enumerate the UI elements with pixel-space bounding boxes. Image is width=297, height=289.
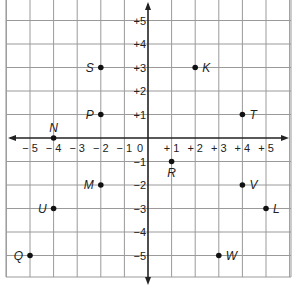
x-tick-label: − 3	[69, 142, 85, 154]
point-u	[51, 206, 57, 212]
point-label-p: P	[86, 108, 94, 122]
y-tick-label: −4	[133, 226, 146, 238]
point-t	[240, 112, 246, 118]
x-tick-label: + 2	[187, 142, 203, 154]
x-tick-label: + 1	[164, 142, 180, 154]
point-label-w: W	[226, 249, 239, 263]
y-axis-down-arrow-icon	[145, 277, 151, 285]
x-tick-label: − 4	[46, 142, 62, 154]
y-tick-label: −3	[133, 203, 146, 215]
point-label-n: N	[49, 121, 58, 135]
point-label-k: K	[202, 61, 211, 75]
y-tick-label: +2	[133, 85, 146, 97]
point-label-s: S	[86, 61, 94, 75]
point-n	[51, 135, 57, 141]
x-tick-label: − 2	[93, 142, 109, 154]
y-tick-label: +1	[133, 109, 146, 121]
x-tick-label: + 4	[235, 142, 251, 154]
point-label-l: L	[273, 202, 280, 216]
point-q	[27, 253, 33, 259]
origin-label: 0	[137, 142, 143, 154]
y-tick-label: +4	[133, 38, 146, 50]
x-tick-label: + 3	[211, 142, 227, 154]
point-w	[216, 253, 222, 259]
point-p	[98, 112, 104, 118]
y-tick-label: −2	[133, 179, 146, 191]
x-axis-right-arrow-icon	[281, 135, 289, 141]
point-label-r: R	[167, 166, 176, 180]
point-label-q: Q	[14, 249, 23, 263]
y-tick-label: +3	[133, 62, 146, 74]
point-label-m: M	[84, 178, 94, 192]
point-v	[240, 182, 246, 188]
x-tick-label: + 5	[258, 142, 274, 154]
point-k	[192, 65, 198, 71]
y-tick-label: +5	[133, 15, 146, 27]
x-tick-label: − 5	[22, 142, 38, 154]
x-tick-label: − 1	[117, 142, 133, 154]
y-axis-up-arrow-icon	[145, 2, 151, 10]
y-tick-label: −5	[133, 250, 146, 262]
point-label-v: V	[249, 178, 258, 192]
point-m	[98, 182, 104, 188]
y-tick-label: −1	[133, 156, 146, 168]
point-r	[169, 159, 175, 165]
coordinate-plane: − 5− 4− 3− 2− 1+ 1+ 2+ 3+ 4+ 50+5+4+3+2+…	[0, 0, 297, 289]
x-axis-left-arrow-icon	[8, 135, 16, 141]
point-label-u: U	[38, 202, 47, 216]
point-s	[98, 65, 104, 71]
point-l	[263, 206, 269, 212]
